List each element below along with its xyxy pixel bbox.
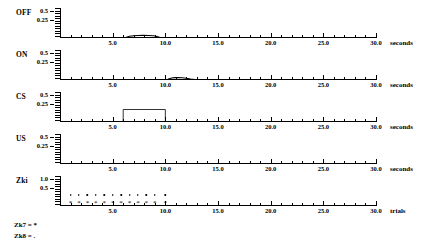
x-tick-label: 30.0	[370, 207, 381, 214]
trace-path	[60, 78, 376, 81]
marker-star: *	[119, 201, 123, 206]
x-tick-label: 15.0	[212, 165, 223, 172]
x-tick-label: 25.0	[318, 165, 329, 172]
y-tick-dash	[50, 11, 54, 12]
trace-svg	[60, 50, 376, 80]
marker-dot	[120, 194, 122, 196]
trace-svg	[60, 92, 376, 122]
panel-cs: CS0.50.255.010.015.020.025.030.0seconds	[0, 90, 436, 132]
marker-star: *	[145, 201, 149, 206]
y-tick-dash	[50, 137, 54, 138]
x-tick-label: 20.0	[265, 123, 276, 130]
legend-entry-zk8: Zk8 = .	[14, 232, 35, 240]
marker-star: *	[164, 201, 168, 206]
marker-dot	[165, 194, 167, 196]
panel-zki: Zki1.00.55.010.015.020.025.030.0********…	[0, 174, 436, 216]
x-tick-label: 20.0	[265, 207, 276, 214]
y-tick-label: 0.25	[22, 142, 48, 149]
y-tick-label: 0.5	[22, 7, 48, 14]
marker-dot	[112, 194, 114, 196]
panel-off: OFF0.50.255.010.015.020.025.030.0seconds	[0, 6, 436, 48]
marker-trace: ************	[60, 174, 376, 206]
marker-star: *	[94, 201, 98, 206]
x-tick-label: 30.0	[370, 81, 381, 88]
y-tick-label: 0.25	[22, 16, 48, 23]
panel-us: US0.50.255.010.015.020.025.030.0seconds	[0, 132, 436, 174]
x-tick-label: 15.0	[212, 207, 223, 214]
x-tick-label: 10.0	[160, 39, 171, 46]
trace-svg	[60, 8, 376, 38]
figure-root: OFF0.50.255.010.015.020.025.030.0seconds…	[0, 0, 436, 251]
axis-unit-label-zki: trials	[390, 207, 406, 215]
x-tick-label: 10.0	[160, 207, 171, 214]
y-tick-dash	[50, 62, 54, 63]
y-tick-dash	[50, 20, 54, 21]
panel-on: ON0.50.255.010.015.020.025.030.0seconds	[0, 48, 436, 90]
y-tick-dash	[50, 53, 54, 54]
y-tick-dash	[50, 179, 54, 180]
marker-dot	[154, 194, 156, 196]
marker-dot	[137, 194, 139, 196]
marker-dot	[129, 194, 131, 196]
x-tick-label: 10.0	[160, 123, 171, 130]
marker-star: *	[77, 201, 81, 206]
y-tick-label: 1.0	[22, 175, 48, 182]
x-tick-label: 25.0	[318, 81, 329, 88]
x-major-tick	[376, 75, 377, 80]
marker-star: *	[128, 201, 132, 206]
y-tick-label: 0.5	[22, 133, 48, 140]
y-tick-label: 0.5	[22, 184, 48, 191]
x-major-tick	[376, 33, 377, 38]
plot-area: 5.010.015.020.025.030.0	[60, 48, 376, 90]
x-tick-label: 25.0	[318, 207, 329, 214]
marker-dot	[95, 194, 97, 196]
x-tick-label: 15.0	[212, 39, 223, 46]
y-tick-label: 0.25	[22, 100, 48, 107]
x-tick-label: 10.0	[160, 165, 171, 172]
plot-area: 5.010.015.020.025.030.0************	[60, 174, 376, 216]
x-tick-label: 10.0	[160, 81, 171, 88]
y-tick-label: 0.5	[22, 49, 48, 56]
trace-path	[60, 35, 376, 38]
x-tick-label: 5.0	[109, 165, 117, 172]
marker-star: *	[86, 201, 90, 206]
x-tick-label: 30.0	[370, 39, 381, 46]
x-tick-label: 20.0	[265, 81, 276, 88]
marker-star: *	[136, 201, 140, 206]
x-tick-label: 25.0	[318, 39, 329, 46]
trace-svg	[60, 134, 376, 164]
marker-dot	[103, 194, 105, 196]
x-tick-label: 20.0	[265, 165, 276, 172]
plot-area: 5.010.015.020.025.030.0	[60, 132, 376, 174]
y-tick-dash	[50, 95, 54, 96]
legend-entry-zk7: Zk7 = *	[14, 221, 37, 229]
axis-unit-label-on: seconds	[390, 81, 413, 89]
y-tick-dash	[50, 188, 54, 189]
plot-area: 5.010.015.020.025.030.0	[60, 6, 376, 48]
x-tick-label: 15.0	[212, 123, 223, 130]
x-major-tick	[376, 159, 377, 164]
marker-star: *	[69, 201, 73, 206]
marker-dot	[87, 194, 89, 196]
marker-star: *	[102, 201, 106, 206]
x-major-tick	[376, 117, 377, 122]
x-tick-label: 5.0	[109, 123, 117, 130]
marker-dot	[78, 194, 80, 196]
y-tick-label: 0.5	[22, 91, 48, 98]
trace-path	[60, 110, 376, 123]
x-major-tick	[376, 201, 377, 206]
x-tick-label: 25.0	[318, 123, 329, 130]
marker-dot	[70, 194, 72, 196]
axis-unit-label-cs: seconds	[390, 123, 413, 131]
x-tick-label: 20.0	[265, 39, 276, 46]
y-tick-dash	[50, 146, 54, 147]
x-tick-label: 5.0	[109, 207, 117, 214]
y-tick-dash	[50, 104, 54, 105]
x-tick-label: 5.0	[109, 39, 117, 46]
marker-dot	[146, 194, 148, 196]
x-tick-label: 30.0	[370, 165, 381, 172]
plot-area: 5.010.015.020.025.030.0	[60, 90, 376, 132]
x-tick-label: 30.0	[370, 123, 381, 130]
marker-star: *	[153, 201, 157, 206]
x-tick-label: 5.0	[109, 81, 117, 88]
